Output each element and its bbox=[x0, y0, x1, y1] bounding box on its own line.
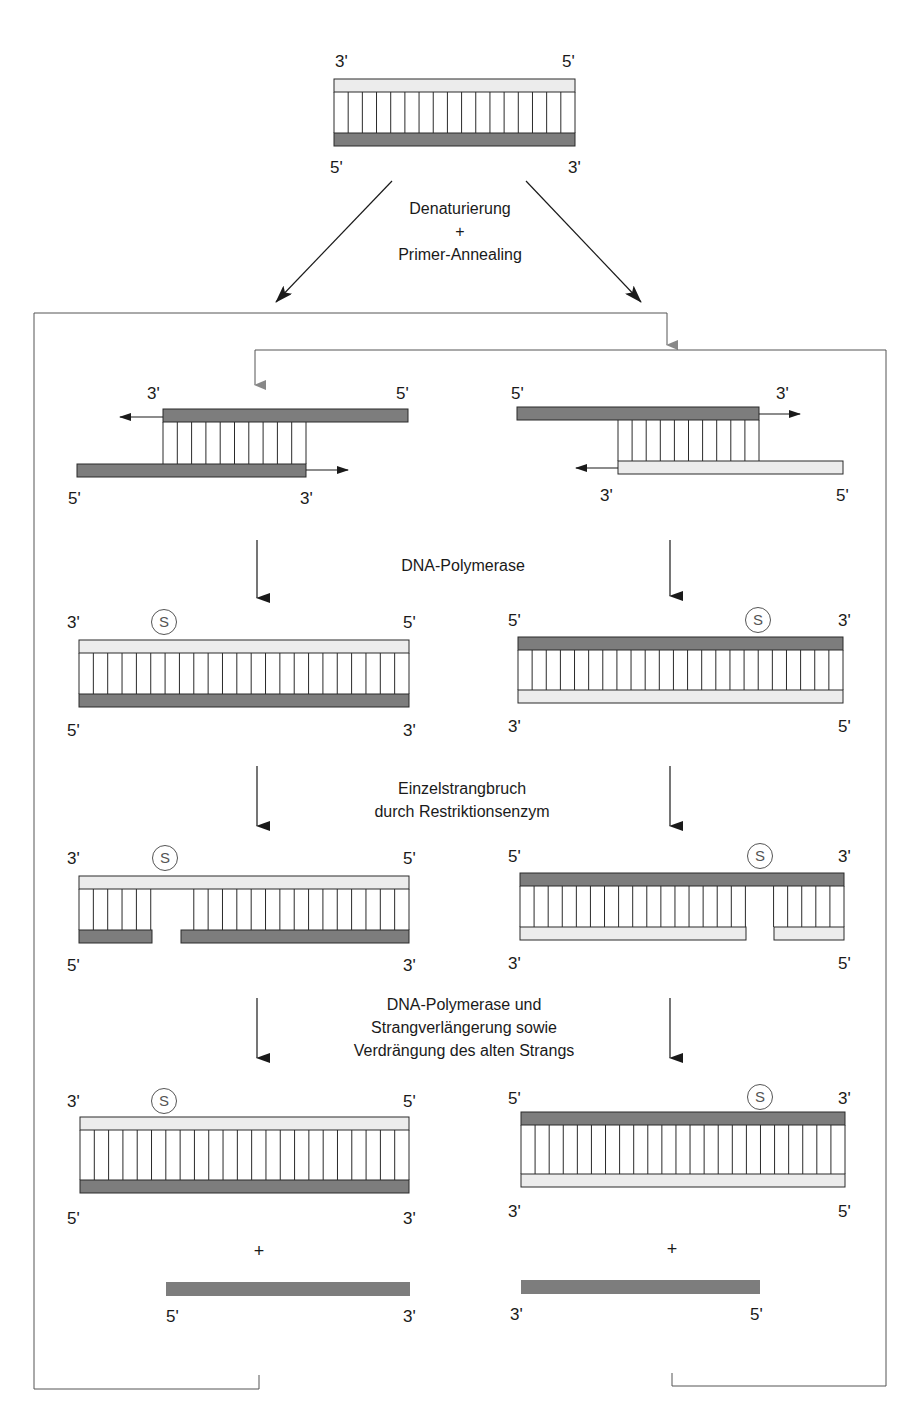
released-strand-right bbox=[521, 1280, 760, 1294]
restriction-site-marker: S bbox=[745, 607, 771, 633]
end-label-5prime: 5' bbox=[750, 1306, 763, 1323]
end-label-5prime: 5' bbox=[838, 955, 851, 972]
nicked-duplex-left bbox=[79, 876, 409, 943]
end-label-3prime: 3' bbox=[510, 1306, 523, 1323]
end-label-5prime: 5' bbox=[403, 850, 416, 867]
split-arrow-right bbox=[526, 181, 641, 302]
plus-sign: + bbox=[254, 1242, 265, 1260]
step-text: Einzelstrangbruch bbox=[374, 777, 549, 800]
extended-duplex-right bbox=[518, 637, 843, 703]
split-arrow-left bbox=[276, 181, 392, 302]
template-duplex bbox=[334, 79, 575, 146]
product-duplex-left bbox=[80, 1117, 409, 1193]
restriction-site-marker: S bbox=[152, 845, 178, 871]
end-label-3prime: 3' bbox=[67, 850, 80, 867]
step-text: durch Restriktionsenzym bbox=[374, 800, 549, 823]
end-label-5prime: 5' bbox=[67, 1210, 80, 1227]
step-text: Primer-Annealing bbox=[398, 243, 522, 266]
feedback-loop-right bbox=[255, 350, 886, 1386]
step-text: DNA-Polymerase bbox=[401, 554, 525, 577]
product-duplex-right bbox=[521, 1112, 845, 1187]
end-label-5prime: 5' bbox=[836, 487, 849, 504]
end-label-3prime: 3' bbox=[403, 1308, 416, 1325]
primer-annealed-left bbox=[77, 409, 408, 477]
end-label-3prime: 3' bbox=[67, 614, 80, 631]
end-label-5prime: 5' bbox=[511, 385, 524, 402]
end-label-5prime: 5' bbox=[562, 53, 575, 70]
end-label-5prime: 5' bbox=[403, 614, 416, 631]
step-nicking-label: Einzelstrangbruch durch Restriktionsenzy… bbox=[374, 777, 549, 823]
end-label-3prime: 3' bbox=[776, 385, 789, 402]
end-label-3prime: 3' bbox=[403, 1210, 416, 1227]
step-text: Denaturierung bbox=[398, 197, 522, 220]
restriction-site-marker: S bbox=[151, 609, 177, 635]
restriction-site-marker: S bbox=[747, 843, 773, 869]
end-label-3prime: 3' bbox=[838, 1090, 851, 1107]
nicked-duplex-right bbox=[520, 873, 844, 940]
end-label-5prime: 5' bbox=[403, 1093, 416, 1110]
restriction-site-marker: S bbox=[747, 1084, 773, 1110]
end-label-3prime: 3' bbox=[403, 957, 416, 974]
end-label-3prime: 3' bbox=[300, 490, 313, 507]
step-displacement-label: DNA-Polymerase und Strangverlängerung so… bbox=[354, 993, 575, 1062]
step-text: Strangverlängerung sowie bbox=[354, 1016, 575, 1039]
end-label-3prime: 3' bbox=[147, 385, 160, 402]
end-label-3prime: 3' bbox=[508, 955, 521, 972]
extended-duplex-left bbox=[79, 640, 409, 707]
end-label-5prime: 5' bbox=[330, 159, 343, 176]
step-text: DNA-Polymerase und bbox=[354, 993, 575, 1016]
step-text: + bbox=[398, 220, 522, 243]
end-label-5prime: 5' bbox=[396, 385, 409, 402]
step-text: Verdrängung des alten Strangs bbox=[354, 1039, 575, 1062]
end-label-3prime: 3' bbox=[568, 159, 581, 176]
end-label-3prime: 3' bbox=[838, 612, 851, 629]
end-label-3prime: 3' bbox=[508, 1203, 521, 1220]
end-label-3prime: 3' bbox=[335, 53, 348, 70]
plus-sign: + bbox=[667, 1240, 678, 1258]
end-label-5prime: 5' bbox=[508, 848, 521, 865]
end-label-5prime: 5' bbox=[838, 718, 851, 735]
end-label-3prime: 3' bbox=[508, 718, 521, 735]
end-label-5prime: 5' bbox=[508, 612, 521, 629]
end-label-3prime: 3' bbox=[403, 722, 416, 739]
end-label-5prime: 5' bbox=[67, 722, 80, 739]
primer-annealed-right bbox=[517, 407, 843, 474]
end-label-5prime: 5' bbox=[838, 1203, 851, 1220]
end-label-5prime: 5' bbox=[166, 1308, 179, 1325]
end-label-5prime: 5' bbox=[68, 490, 81, 507]
step-polymerase-label: DNA-Polymerase bbox=[401, 554, 525, 577]
end-label-5prime: 5' bbox=[67, 957, 80, 974]
end-label-3prime: 3' bbox=[600, 487, 613, 504]
step-denaturation-label: Denaturierung + Primer-Annealing bbox=[398, 197, 522, 266]
end-label-3prime: 3' bbox=[67, 1093, 80, 1110]
end-label-3prime: 3' bbox=[838, 848, 851, 865]
restriction-site-marker: S bbox=[151, 1088, 177, 1114]
end-label-5prime: 5' bbox=[508, 1090, 521, 1107]
released-strand-left bbox=[166, 1282, 410, 1296]
